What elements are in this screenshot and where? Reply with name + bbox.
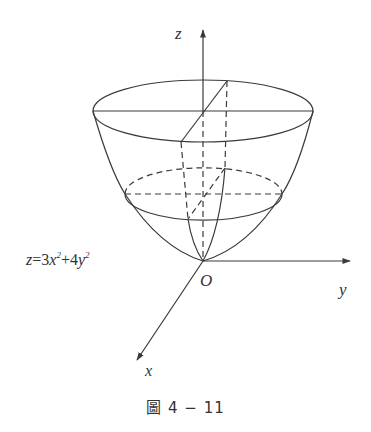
paraboloid-left-side (93, 111, 203, 261)
eq-exp-2: 2 (85, 250, 90, 260)
z-axis-label: z (175, 24, 182, 44)
section-curve-right (203, 168, 225, 261)
eq-coef-2: 4 (70, 251, 78, 268)
origin-label: O (200, 271, 212, 291)
eq-plus: + (61, 251, 70, 268)
y-axis-label: y (339, 280, 347, 300)
x-axis (137, 261, 203, 360)
eq-sign: = (32, 251, 41, 268)
back-vertical-dashed (225, 81, 227, 168)
paraboloid-right-side (203, 111, 313, 261)
paraboloid-diagram (0, 0, 371, 432)
figure-caption: 圖 4 − 11 (0, 396, 371, 417)
section-curve-left (188, 219, 203, 261)
surface-equation: z=3x2+4y2 (26, 250, 90, 269)
eq-var-2: y (78, 251, 85, 268)
front-vertical-dashed (181, 142, 188, 219)
x-axis-label: x (145, 362, 152, 380)
